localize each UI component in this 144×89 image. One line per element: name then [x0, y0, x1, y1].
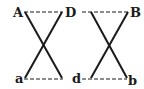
left-cross	[24, 12, 63, 79]
label-B: B	[130, 5, 141, 20]
label-b: b	[128, 73, 137, 88]
label-d: d	[72, 71, 81, 86]
label-A: A	[12, 5, 24, 20]
cross-diagram: A D B a d b	[0, 0, 144, 89]
right-cross	[82, 12, 129, 79]
label-a: a	[15, 71, 24, 86]
label-D: D	[65, 5, 76, 20]
